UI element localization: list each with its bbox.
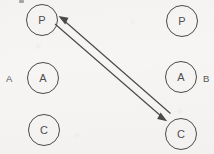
scan-artifact-speck	[19, 0, 24, 3]
arrowhead-to-c	[157, 112, 167, 121]
arrowhead-to-p	[59, 16, 69, 25]
node-left-a-label: A	[39, 73, 47, 84]
node-left-a[interactable]: A	[27, 62, 59, 94]
node-right-a-label: A	[177, 72, 185, 83]
node-left-c[interactable]: C	[28, 114, 60, 146]
node-right-c[interactable]: C	[165, 118, 197, 150]
node-left-p-label: P	[38, 15, 46, 26]
node-right-p-label: P	[178, 16, 186, 27]
node-right-c-label: C	[177, 129, 185, 140]
diagram-canvas: A B P A C P A C	[0, 0, 214, 154]
node-left-c-label: C	[40, 125, 48, 136]
node-left-p[interactable]: P	[26, 4, 58, 36]
node-right-a[interactable]: A	[165, 61, 197, 93]
column-label-a: A	[6, 74, 12, 84]
node-right-p[interactable]: P	[166, 5, 198, 37]
connector-line-lower	[55, 24, 167, 121]
connector-line-upper	[59, 16, 171, 114]
column-label-b: B	[203, 74, 209, 84]
